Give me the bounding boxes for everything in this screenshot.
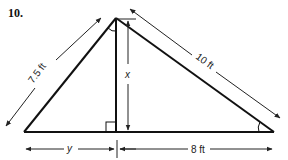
triangle-outline bbox=[24, 18, 274, 132]
left-side-dimension-down bbox=[6, 88, 35, 126]
right-base-angle-arc bbox=[258, 122, 260, 132]
apex-angle-arc bbox=[108, 28, 116, 31]
triangle-figure: x 7.5 ft 10 ft y 8 ft bbox=[0, 0, 288, 160]
eight-ft-label: 8 ft bbox=[191, 144, 205, 155]
diagram-canvas: 10. x 7.5 ft 10 ft bbox=[0, 0, 288, 160]
left-side-dimension-up bbox=[56, 18, 101, 60]
right-side-label: 10 ft bbox=[194, 51, 216, 71]
y-label: y bbox=[66, 143, 73, 154]
problem-number: 10. bbox=[8, 6, 23, 21]
right-side-dimension-down bbox=[216, 72, 280, 118]
right-angle-marker bbox=[106, 122, 116, 132]
left-side-label: 7.5 ft bbox=[26, 61, 48, 86]
right-side-dimension-up bbox=[130, 9, 192, 55]
right-side bbox=[116, 18, 274, 132]
altitude-label: x bbox=[124, 69, 131, 80]
